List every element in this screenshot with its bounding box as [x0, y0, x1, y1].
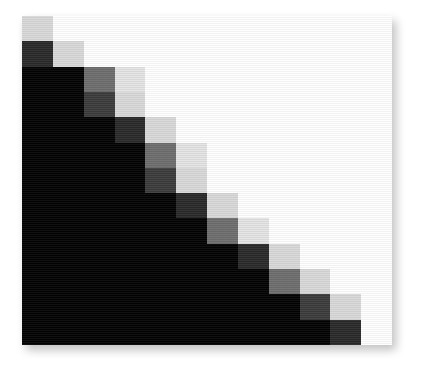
heatmap-cell: [330, 143, 361, 168]
heatmap-cell: [269, 269, 300, 294]
heatmap-cell: [53, 92, 84, 117]
heatmap-cell: [145, 41, 176, 66]
heatmap-cell: [207, 117, 238, 142]
heatmap-cell: [22, 67, 53, 92]
heatmap-cell: [207, 16, 238, 41]
heatmap-cell: [330, 218, 361, 243]
heatmap-cell: [84, 168, 115, 193]
heatmap-cell: [53, 218, 84, 243]
heatmap-cell: [22, 92, 53, 117]
heatmap-cell: [84, 294, 115, 319]
heatmap-cell: [330, 320, 361, 345]
heatmap-cell: [238, 244, 269, 269]
heatmap-cell: [22, 41, 53, 66]
heatmap-cell: [330, 67, 361, 92]
heatmap-cell: [115, 117, 146, 142]
heatmap-cell: [22, 168, 53, 193]
heatmap-cell: [269, 67, 300, 92]
heatmap-cell: [330, 92, 361, 117]
matrix-figure: [22, 16, 392, 345]
heatmap-cell: [84, 143, 115, 168]
heatmap-cell: [176, 143, 207, 168]
heatmap-cell: [207, 269, 238, 294]
heatmap-cell: [300, 244, 331, 269]
heatmap-cell: [53, 143, 84, 168]
heatmap-cell: [145, 117, 176, 142]
heatmap-cell: [22, 16, 53, 41]
heatmap-cell: [300, 16, 331, 41]
heatmap-cell: [84, 218, 115, 243]
heatmap-cell: [330, 16, 361, 41]
heatmap-cell: [207, 320, 238, 345]
heatmap-cell: [22, 320, 53, 345]
heatmap-cell: [361, 193, 392, 218]
heatmap-cell: [176, 92, 207, 117]
heatmap-cell: [330, 269, 361, 294]
heatmap-cell: [361, 41, 392, 66]
heatmap-cell: [84, 92, 115, 117]
heatmap-cell: [207, 168, 238, 193]
heatmap-cell: [330, 117, 361, 142]
heatmap-cell: [84, 320, 115, 345]
heatmap-cell: [145, 16, 176, 41]
heatmap-cell: [53, 16, 84, 41]
heatmap-cell: [238, 117, 269, 142]
heatmap-cell: [53, 320, 84, 345]
heatmap-cell: [238, 168, 269, 193]
heatmap-cell: [22, 244, 53, 269]
heatmap-cell: [330, 193, 361, 218]
heatmap-cell: [207, 143, 238, 168]
heatmap-cell: [145, 92, 176, 117]
heatmap-cell: [176, 294, 207, 319]
heatmap-cell: [115, 244, 146, 269]
heatmap-cell: [238, 143, 269, 168]
heatmap-cell: [269, 92, 300, 117]
heatmap-cell: [300, 117, 331, 142]
heatmap-cell: [207, 244, 238, 269]
heatmap-cell: [53, 193, 84, 218]
heatmap-cell: [115, 67, 146, 92]
heatmap-cell: [145, 67, 176, 92]
heatmap-cell: [300, 67, 331, 92]
heatmap-cell: [53, 168, 84, 193]
heatmap-cell: [53, 41, 84, 66]
heatmap-cell: [115, 218, 146, 243]
heatmap-cell: [176, 320, 207, 345]
heatmap-cell: [176, 168, 207, 193]
heatmap-cell: [115, 269, 146, 294]
heatmap-cell: [145, 269, 176, 294]
page-root: [0, 0, 423, 373]
heatmap-cell: [53, 117, 84, 142]
heatmap-cell: [361, 67, 392, 92]
heatmap-cell: [145, 168, 176, 193]
heatmap-cell: [300, 143, 331, 168]
heatmap-cell: [300, 193, 331, 218]
heatmap-cell: [176, 117, 207, 142]
heatmap-cell: [238, 320, 269, 345]
heatmap-cell: [84, 117, 115, 142]
heatmap-cell: [22, 294, 53, 319]
heatmap-cell: [115, 193, 146, 218]
heatmap-cell: [238, 193, 269, 218]
heatmap-cell: [115, 320, 146, 345]
heatmap-cell: [300, 168, 331, 193]
heatmap-cell: [22, 117, 53, 142]
heatmap-cell: [176, 193, 207, 218]
heatmap-cell: [361, 294, 392, 319]
heatmap-cell: [53, 269, 84, 294]
heatmap-cell: [238, 294, 269, 319]
heatmap-cell: [330, 168, 361, 193]
heatmap-cell: [300, 41, 331, 66]
heatmap-cell: [145, 320, 176, 345]
heatmap-cell: [207, 41, 238, 66]
heatmap-cell: [176, 41, 207, 66]
heatmap-cell: [207, 294, 238, 319]
heatmap-cell: [53, 294, 84, 319]
heatmap-cell: [238, 269, 269, 294]
heatmap-cell: [361, 16, 392, 41]
heatmap-cell: [269, 16, 300, 41]
heatmap-cell: [269, 117, 300, 142]
heatmap-cell: [22, 193, 53, 218]
heatmap-cell: [53, 244, 84, 269]
heatmap-cell: [330, 294, 361, 319]
